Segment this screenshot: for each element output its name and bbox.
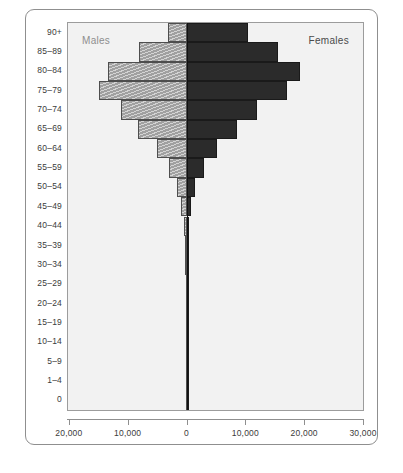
x-axis-tick-label: 10,000 — [232, 428, 259, 438]
pyramid-row — [68, 100, 363, 119]
y-axis-tick-label: 0 — [57, 394, 62, 404]
x-axis-tick-label: 30,000 — [349, 428, 376, 438]
y-axis-tick-label: 5–9 — [47, 356, 62, 366]
bar-female — [187, 120, 238, 139]
bar-male — [99, 81, 186, 100]
bar-female — [187, 62, 301, 81]
pyramid-row — [68, 275, 363, 294]
y-axis-tick-label: 55–59 — [37, 162, 62, 172]
pyramid-row — [68, 178, 363, 197]
y-axis-tick-label: 75–79 — [37, 85, 62, 95]
plot-panel: Males Females — [67, 22, 364, 411]
y-axis-tick-label: 70–74 — [37, 104, 62, 114]
y-axis-tick-label: 85–89 — [37, 46, 62, 56]
bar-male — [168, 23, 187, 42]
pyramid-row — [68, 236, 363, 255]
pyramid-row — [68, 294, 363, 313]
x-axis-tick-label: 10,000 — [114, 428, 141, 438]
y-axis-labels: 90+85–8980–8475–7970–7465–6960–6455–5950… — [25, 22, 67, 411]
pyramid-row — [68, 158, 363, 177]
x-axis-tick — [69, 419, 70, 425]
chart-root: 90+85–8980–8475–7970–7465–6960–6455–5950… — [0, 0, 403, 473]
females-caption: Females — [309, 35, 349, 46]
y-axis-tick-label: 50–54 — [37, 181, 62, 191]
x-axis-tick — [128, 419, 129, 425]
x-axis-tick — [187, 419, 188, 425]
y-axis-tick-label: 20–24 — [37, 298, 62, 308]
pyramid-row — [68, 120, 363, 139]
bar-male — [157, 139, 187, 158]
pyramid-row — [68, 313, 363, 332]
bar-female — [187, 42, 279, 61]
pyramid-row — [68, 217, 363, 236]
x-axis-tick-label: 0 — [184, 428, 189, 438]
bar-female — [187, 158, 204, 177]
bar-male — [108, 62, 187, 81]
y-axis-tick-label: 40–44 — [37, 220, 62, 230]
bar-female — [187, 81, 288, 100]
pyramid-row — [68, 197, 363, 216]
bars-area — [68, 23, 363, 410]
y-axis-tick-label: 80–84 — [37, 65, 62, 75]
bar-female — [187, 100, 258, 119]
bar-female — [187, 23, 248, 42]
y-axis-tick-label: 65–69 — [37, 123, 62, 133]
bar-male — [139, 42, 187, 61]
pyramid-row — [68, 139, 363, 158]
bar-female — [187, 139, 217, 158]
pyramid-row — [68, 333, 363, 352]
zero-axis-line — [187, 23, 188, 410]
pyramid-row — [68, 391, 363, 410]
pyramid-row — [68, 352, 363, 371]
y-axis-tick-label: 35–39 — [37, 240, 62, 250]
y-axis-tick-label: 15–19 — [37, 317, 62, 327]
y-axis-tick-label: 45–49 — [37, 201, 62, 211]
x-axis-tick — [245, 419, 246, 425]
y-axis-tick-label: 30–34 — [37, 259, 62, 269]
x-axis-tick-label: 20,000 — [55, 428, 82, 438]
y-axis-tick-label: 25–29 — [37, 278, 62, 288]
x-axis-line — [67, 419, 364, 420]
pyramid-row — [68, 371, 363, 390]
pyramid-row — [68, 255, 363, 274]
y-axis-tick-label: 60–64 — [37, 143, 62, 153]
pyramid-row — [68, 81, 363, 100]
bar-male — [169, 158, 187, 177]
bar-female — [187, 178, 196, 197]
males-caption: Males — [82, 35, 110, 46]
bar-male — [121, 100, 187, 119]
bar-male — [177, 178, 187, 197]
y-axis-tick-label: 90+ — [47, 27, 62, 37]
bar-male — [138, 120, 187, 139]
y-axis-tick-label: 10–14 — [37, 336, 62, 346]
y-axis-tick-label: 1–4 — [47, 375, 62, 385]
x-axis-tick — [304, 419, 305, 425]
x-axis-tick — [363, 419, 364, 425]
x-axis-tick-label: 20,000 — [291, 428, 318, 438]
pyramid-row — [68, 62, 363, 81]
